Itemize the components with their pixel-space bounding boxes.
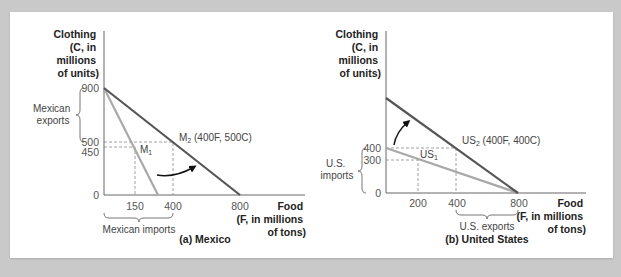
us-caption: (b) United States (445, 233, 529, 245)
us-exports-label: U.S. exports (459, 221, 514, 232)
mexico-imports-label: Mexican imports (103, 224, 176, 235)
mexico-m1-line (104, 88, 158, 195)
us-x-tick-800: 800 (510, 197, 528, 209)
us-y-tick-400: 400 (363, 142, 381, 154)
mexico-x-tick-150: 150 (126, 200, 144, 212)
us-exports-brace-icon (456, 210, 518, 219)
us-x-tick-400: 400 (448, 197, 466, 209)
us-us2-label: US2 (400F, 400C) (462, 135, 540, 147)
us-us1-label: US1 (420, 149, 438, 161)
mexico-exports-label: Mexican exports (33, 103, 73, 126)
mexico-caption: (a) Mexico (179, 233, 230, 245)
mexico-guide-lines (104, 142, 173, 195)
mexico-x-tick-800: 800 (231, 200, 249, 212)
mexico-x-tick-400: 400 (164, 200, 182, 212)
us-rotation-arrow-icon (394, 122, 408, 145)
us-us1-line (386, 148, 518, 193)
mexico-y-tick-450: 450 (81, 146, 99, 158)
us-y-tick-0: 0 (375, 187, 381, 199)
mexico-m2-label: M2 (400F, 500C) (179, 132, 252, 144)
us-chart: Clothing (C, in millions of units) 400 3… (321, 28, 586, 245)
mexico-y-tick-0: 0 (93, 189, 99, 201)
mexico-rotation-arrow-icon (157, 167, 194, 176)
mexico-m1-label: M1 (140, 144, 152, 156)
figure: Clothing (C, in millions of units) 900 5… (0, 0, 621, 277)
us-y-axis-label: Clothing (C, in millions of units) (336, 28, 382, 79)
us-y-tick-300: 300 (363, 154, 381, 166)
mexico-y-tick-900: 900 (81, 82, 99, 94)
mexico-exports-brace-icon (76, 88, 84, 142)
mexico-y-axis-label: Clothing (C, in millions of units) (54, 28, 100, 79)
us-imports-label: U.S. imports (321, 158, 354, 181)
mexico-chart: Clothing (C, in millions of units) 900 5… (33, 28, 306, 245)
mexico-imports-brace-icon (104, 213, 173, 222)
us-x-tick-200: 200 (409, 197, 427, 209)
